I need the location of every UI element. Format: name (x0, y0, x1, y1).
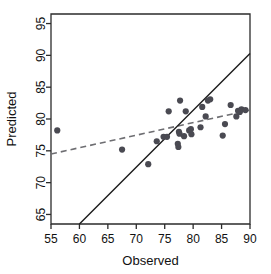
data-point (145, 161, 151, 167)
y-tick-label: 75 (34, 144, 48, 158)
data-point (119, 146, 125, 152)
data-point (154, 138, 160, 144)
y-axis-title: Predicted (4, 92, 19, 147)
x-tick-label: 75 (158, 232, 172, 246)
scatter-plot-figure: 556065707580859065707580859095ObservedPr… (0, 0, 271, 274)
y-tick-label: 65 (34, 207, 48, 221)
data-point (222, 121, 228, 127)
data-point (199, 104, 205, 110)
x-tick-label: 60 (73, 232, 87, 246)
fit-line-path (51, 110, 250, 154)
y-tick-label: 80 (34, 112, 48, 126)
x-tick-label: 80 (186, 232, 200, 246)
data-point (242, 107, 248, 113)
axis-labels-group: 556065707580859065707580859095ObservedPr… (4, 17, 257, 268)
data-point (177, 97, 183, 103)
x-axis-title: Observed (122, 253, 178, 268)
data-point (164, 134, 170, 140)
y-tick-label: 70 (34, 176, 48, 190)
y-tick-label: 95 (34, 17, 48, 31)
y-tick-label: 85 (34, 80, 48, 94)
data-point (54, 127, 60, 133)
data-point (197, 124, 203, 130)
y-tick-label: 90 (34, 48, 48, 62)
x-tick-label: 90 (243, 232, 257, 246)
axes-group (46, 14, 250, 229)
data-point (183, 108, 189, 114)
data-point (228, 102, 234, 108)
data-point (181, 133, 187, 139)
x-tick-label: 85 (215, 232, 229, 246)
regression-fit-line (51, 110, 250, 154)
x-tick-label: 55 (44, 232, 58, 246)
data-point (220, 132, 226, 138)
data-point (203, 113, 209, 119)
plot-frame (51, 14, 250, 224)
data-point (175, 144, 181, 150)
data-point (207, 96, 213, 102)
x-tick-label: 70 (130, 232, 144, 246)
data-point (188, 131, 194, 137)
x-tick-label: 65 (101, 232, 115, 246)
plot-svg: 556065707580859065707580859095ObservedPr… (0, 0, 271, 274)
data-point (166, 108, 172, 114)
